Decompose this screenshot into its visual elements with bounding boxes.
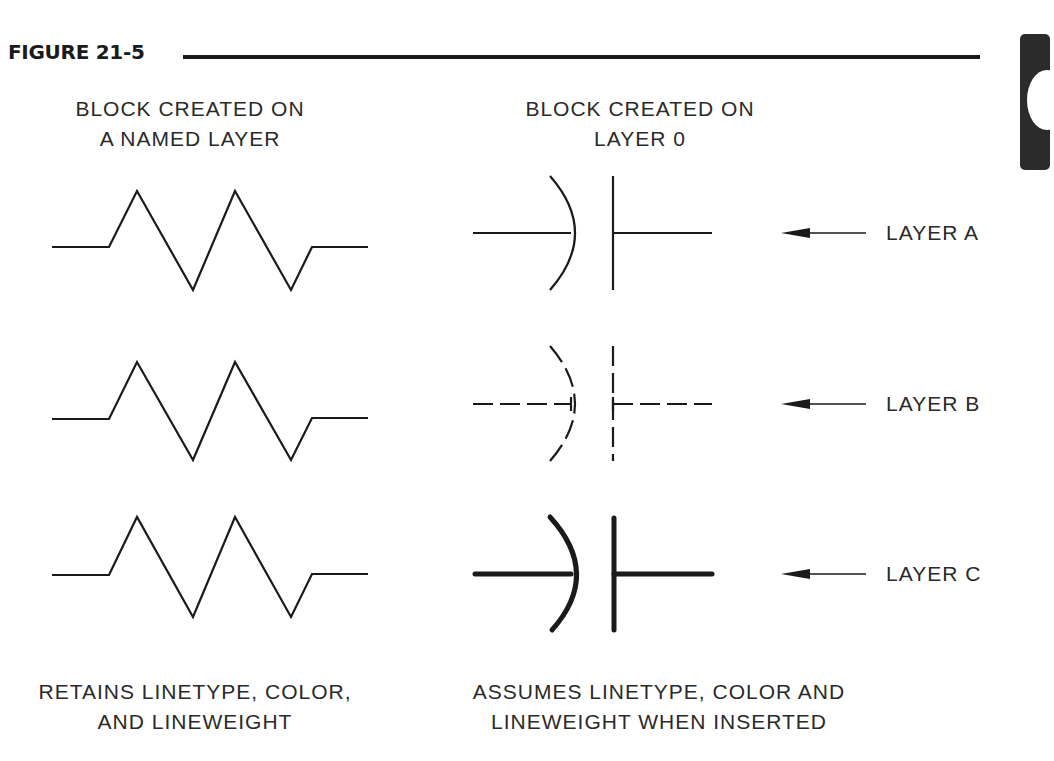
left-column-footer: RETAINS LINETYPE, COLOR, AND LINEWEIGHT xyxy=(0,677,390,737)
resistor-symbol xyxy=(52,517,368,617)
capacitor-junction xyxy=(571,397,613,411)
resistor-symbol xyxy=(52,191,368,290)
layer-b-label: LAYER B xyxy=(886,392,980,416)
capacitor-symbol xyxy=(473,346,712,461)
arrow-left-icon xyxy=(781,228,866,238)
right-column-footer: ASSUMES LINETYPE, COLOR AND LINEWEIGHT W… xyxy=(424,677,894,737)
arrow-left-icon xyxy=(781,569,866,579)
arrow-left-icon xyxy=(781,399,866,409)
capacitor-symbol xyxy=(475,517,712,630)
layer-c-label: LAYER C xyxy=(886,562,981,586)
layer-a-label: LAYER A xyxy=(886,221,979,245)
resistor-symbol xyxy=(52,362,368,460)
capacitor-symbol xyxy=(473,176,712,290)
